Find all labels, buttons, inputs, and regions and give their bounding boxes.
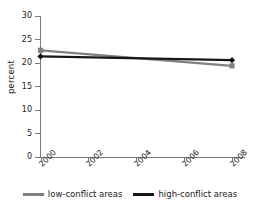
legend-swatch-icon — [23, 193, 44, 195]
data-point-marker — [229, 57, 235, 63]
legend-swatch-icon — [133, 193, 154, 195]
legend-label: high-conflict areas — [158, 190, 237, 199]
series-high-conflict-areas — [37, 53, 235, 63]
line-chart: percent 302520151050 2000200220042006200… — [0, 0, 260, 210]
legend-label: low-conflict areas — [48, 190, 123, 199]
chart-legend: low-conflict areashigh-conflict areas — [0, 190, 260, 199]
data-point-marker — [38, 48, 43, 53]
data-point-marker — [229, 63, 234, 68]
series-layer — [0, 0, 260, 210]
legend-entry[interactable]: low-conflict areas — [23, 190, 123, 199]
data-point-marker — [37, 53, 43, 59]
legend-entry[interactable]: high-conflict areas — [133, 190, 237, 199]
